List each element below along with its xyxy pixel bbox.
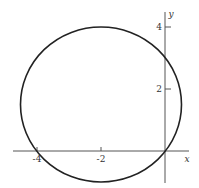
x-axis-label: x [184,154,189,164]
y-tick-label-4: 4 [156,22,162,32]
circle-plot: -4 -2 4 2 x y [0,0,199,188]
y-axis-label: y [167,9,174,19]
x-tick-label-neg2: -2 [97,154,106,164]
x-tick-label-neg4: -4 [33,154,42,164]
y-tick-label-2: 2 [156,84,162,94]
